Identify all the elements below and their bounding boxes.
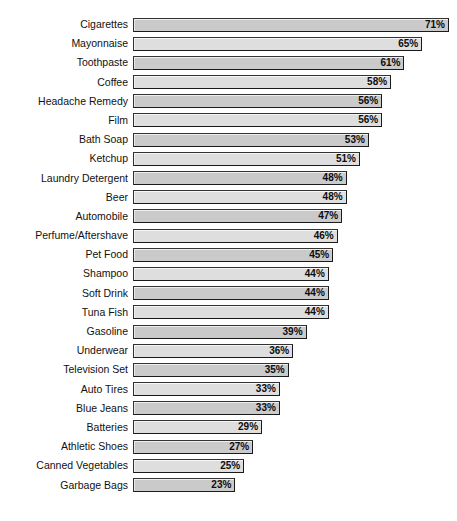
bar: 56% — [133, 113, 382, 127]
bar-row: Beer48% — [0, 190, 457, 209]
bar: 29% — [133, 420, 262, 434]
bar-row: Film56% — [0, 113, 457, 132]
bar: 71% — [133, 18, 449, 32]
bar: 47% — [133, 209, 342, 223]
bar-track: 71% — [133, 18, 449, 32]
bar-row: Tuna Fish44% — [0, 305, 457, 324]
bar-value-label: 48% — [323, 172, 343, 184]
bar: 56% — [133, 94, 382, 108]
bar-value-label: 56% — [358, 114, 378, 126]
bar-row: Toothpaste61% — [0, 55, 457, 74]
bar: 33% — [133, 401, 280, 415]
bar: 27% — [133, 440, 253, 454]
bar-track: 27% — [133, 440, 253, 454]
bar-category-label: Film — [108, 113, 128, 132]
bar-value-label: 44% — [305, 306, 325, 318]
bar-category-label: Batteries — [87, 420, 128, 439]
bar: 51% — [133, 152, 360, 166]
bar-value-label: 65% — [398, 38, 418, 50]
bar-track: 47% — [133, 209, 342, 223]
bar-category-label: Underwear — [77, 343, 128, 362]
bar-value-label: 53% — [345, 134, 365, 146]
bar: 46% — [133, 229, 338, 243]
bar: 45% — [133, 248, 333, 262]
bar-value-label: 33% — [256, 383, 276, 395]
bar-row: Auto Tires33% — [0, 382, 457, 401]
bar-track: 56% — [133, 94, 382, 108]
bar-track: 46% — [133, 229, 338, 243]
bar: 44% — [133, 267, 329, 281]
bar: 44% — [133, 305, 329, 319]
bar-row: Perfume/Aftershave46% — [0, 228, 457, 247]
bar-track: 44% — [133, 305, 329, 319]
bar-value-label: 71% — [425, 19, 445, 31]
bar: 25% — [133, 459, 244, 473]
bar-row: Cigarettes71% — [0, 17, 457, 36]
bar-track: 44% — [133, 267, 329, 281]
bar-category-label: Athletic Shoes — [61, 439, 128, 458]
bar: 48% — [133, 171, 347, 185]
bar-track: 33% — [133, 382, 280, 396]
bar-category-label: Cigarettes — [80, 17, 128, 36]
bar: 44% — [133, 286, 329, 300]
bar: 48% — [133, 190, 347, 204]
bar-value-label: 35% — [265, 364, 285, 376]
bar-track: 25% — [133, 459, 244, 473]
bar-value-label: 23% — [211, 479, 231, 491]
bar-row: Television Set35% — [0, 362, 457, 381]
bar-category-label: Soft Drink — [82, 286, 128, 305]
bar-category-label: Canned Vegetables — [36, 458, 128, 477]
bar-category-label: Bath Soap — [79, 132, 128, 151]
bar-value-label: 25% — [220, 460, 240, 472]
bar-category-label: Garbage Bags — [60, 478, 128, 497]
bar: 58% — [133, 75, 391, 89]
bar-track: 65% — [133, 37, 422, 51]
bar: 65% — [133, 37, 422, 51]
bar-value-label: 48% — [323, 191, 343, 203]
bar-value-label: 29% — [238, 421, 258, 433]
bar-row: Batteries29% — [0, 420, 457, 439]
bar-value-label: 45% — [309, 249, 329, 261]
bar-value-label: 51% — [336, 153, 356, 165]
bar-value-label: 61% — [380, 57, 400, 69]
bar-row: Laundry Detergent48% — [0, 171, 457, 190]
bar-track: 58% — [133, 75, 391, 89]
bar-track: 45% — [133, 248, 333, 262]
bar-row: Shampoo44% — [0, 266, 457, 285]
bar-row: Blue Jeans33% — [0, 401, 457, 420]
bar-category-label: Television Set — [63, 362, 128, 381]
bar-category-label: Shampoo — [83, 266, 128, 285]
bar-track: 53% — [133, 133, 369, 147]
bar-row: Coffee58% — [0, 75, 457, 94]
bar: 53% — [133, 133, 369, 147]
bar-category-label: Automobile — [75, 209, 128, 228]
bar-value-label: 44% — [305, 287, 325, 299]
bar-category-label: Perfume/Aftershave — [35, 228, 128, 247]
bar-track: 35% — [133, 363, 289, 377]
bar-chart: Cigarettes71%Mayonnaise65%Toothpaste61%C… — [0, 0, 457, 521]
bar-row: Pet Food45% — [0, 247, 457, 266]
bar-rows-container: Cigarettes71%Mayonnaise65%Toothpaste61%C… — [0, 17, 457, 497]
bar-category-label: Gasoline — [87, 324, 128, 343]
bar-category-label: Headache Remedy — [38, 94, 128, 113]
bar: 61% — [133, 56, 404, 70]
bar-category-label: Coffee — [97, 75, 128, 94]
bar-value-label: 58% — [367, 76, 387, 88]
bar-track: 29% — [133, 420, 262, 434]
bar-row: Headache Remedy56% — [0, 94, 457, 113]
bar-track: 33% — [133, 401, 280, 415]
bar-category-label: Laundry Detergent — [41, 171, 128, 190]
bar-value-label: 39% — [283, 326, 303, 338]
bar-row: Underwear36% — [0, 343, 457, 362]
bar-track: 39% — [133, 325, 307, 339]
bar-value-label: 47% — [318, 210, 338, 222]
bar-track: 48% — [133, 171, 347, 185]
bar-category-label: Toothpaste — [77, 55, 128, 74]
bar-value-label: 27% — [229, 441, 249, 453]
bar-row: Automobile47% — [0, 209, 457, 228]
bar-track: 36% — [133, 344, 293, 358]
bar-track: 44% — [133, 286, 329, 300]
bar-row: Garbage Bags23% — [0, 478, 457, 497]
bar-value-label: 44% — [305, 268, 325, 280]
bar-row: Ketchup51% — [0, 151, 457, 170]
